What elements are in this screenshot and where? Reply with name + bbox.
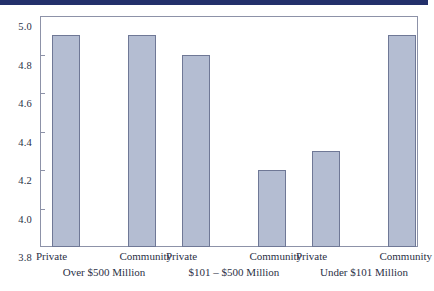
bar bbox=[52, 35, 80, 247]
y-axis-tick-label: 4.0 bbox=[18, 214, 32, 225]
x-axis-bar-label: Community bbox=[379, 249, 432, 264]
x-axis-series-labels: Private Community bbox=[164, 249, 304, 264]
bar-chart: 5.0 4.8 4.6 4.4 4.2 4.0 3.8 Private Comm… bbox=[0, 5, 428, 291]
bar bbox=[388, 35, 416, 247]
bar bbox=[128, 35, 156, 247]
bar bbox=[312, 151, 340, 247]
x-axis-group: Private Community Under $101 Million bbox=[294, 249, 434, 280]
y-axis-tick-label: 3.8 bbox=[18, 253, 32, 264]
y-axis-tick-label: 4.8 bbox=[18, 60, 32, 71]
x-axis-group-label: $101 – $500 Million bbox=[164, 265, 304, 280]
x-axis-group-label: Over $500 Million bbox=[34, 265, 174, 280]
x-axis-series-labels: Private Community bbox=[34, 249, 174, 264]
bars-container bbox=[40, 16, 418, 247]
y-axis-tick-label: 4.2 bbox=[18, 176, 32, 187]
bar bbox=[182, 55, 210, 248]
y-axis-tick-label: 5.0 bbox=[18, 22, 32, 33]
x-axis: Private Community Over $500 Million Priv… bbox=[40, 249, 418, 291]
x-axis-group: Private Community $101 – $500 Million bbox=[164, 249, 304, 280]
x-axis-bar-label: Private bbox=[296, 249, 327, 264]
y-axis: 5.0 4.8 4.6 4.4 4.2 4.0 3.8 bbox=[0, 16, 40, 247]
x-axis-group-label: Under $101 Million bbox=[294, 265, 434, 280]
x-axis-bar-label: Private bbox=[36, 249, 67, 264]
y-axis-tick-label: 4.4 bbox=[18, 137, 32, 148]
x-axis-bar-label: Private bbox=[166, 249, 197, 264]
y-axis-tick-label: 4.6 bbox=[18, 99, 32, 110]
bar bbox=[258, 170, 286, 247]
x-axis-group: Private Community Over $500 Million bbox=[34, 249, 174, 280]
x-axis-series-labels: Private Community bbox=[294, 249, 434, 264]
